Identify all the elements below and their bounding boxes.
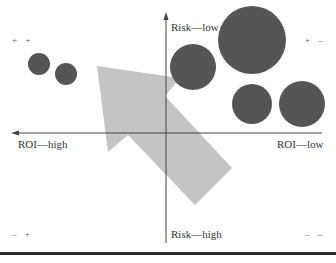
bubble-1: [28, 53, 50, 75]
quadrant-diagram: [0, 0, 336, 263]
direction-arrow: [97, 66, 232, 205]
bubble-6: [279, 81, 325, 127]
risk-high-label: Risk—high: [171, 228, 222, 240]
horizontal-axis-arrowhead-icon: [11, 131, 19, 136]
bubble-5: [232, 84, 272, 124]
roi-high-label: ROI—high: [18, 138, 68, 150]
roi-low-label: ROI—low: [277, 138, 323, 150]
vertical-axis-arrowhead-icon: [164, 12, 169, 20]
risk-low-label: Risk—low: [171, 21, 219, 33]
bubble-3: [170, 44, 216, 90]
quadrant-bottom-right-label: – –: [305, 229, 325, 239]
quadrant-top-left-label: + +: [12, 35, 33, 45]
bubble-2: [55, 63, 77, 85]
bottom-rule: [0, 252, 336, 255]
quadrant-top-right-label: + –: [305, 35, 326, 45]
bubble-4: [218, 6, 286, 74]
quadrant-bottom-left-label: – +: [12, 229, 33, 239]
